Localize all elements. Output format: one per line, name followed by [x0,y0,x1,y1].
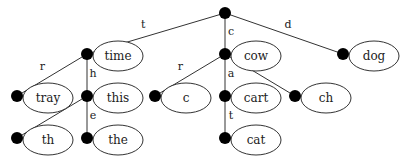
node-label: tray [36,91,61,105]
node-label: time [104,49,131,63]
node-label: cat [247,133,266,147]
node-label: dog [363,49,386,63]
edge-label: d [284,18,291,31]
node-dot [219,48,231,60]
node-label: ch [319,91,334,105]
node-dog: dog [337,41,399,71]
node-th: th [11,125,73,155]
node-dot [337,48,349,60]
edge-label: t [229,109,234,122]
node-dot [81,132,93,144]
node-label: c [183,91,190,105]
node-dot [219,132,231,144]
node-dot [149,90,161,102]
node-ch: ch [289,83,351,113]
node-cat: cat [219,125,281,155]
edge-label: t [141,18,146,31]
node-label: th [42,133,55,147]
edge-label: c [228,25,234,38]
edge-label: r [178,60,184,73]
node-dot [289,90,301,102]
node-dot [81,90,93,102]
node-label: cart [244,91,269,105]
node-dot [11,90,23,102]
node-dot [11,132,23,144]
node-label: cow [244,49,269,63]
edge-label: e [90,109,97,122]
edge-label: a [228,67,235,80]
edge-label: r [40,60,46,73]
node-c: c [149,83,211,113]
node-label: this [107,91,130,105]
node-tray: tray [11,83,73,113]
node-dot [219,90,231,102]
node-the: the [81,125,143,155]
edge-label: h [89,67,96,80]
root-node-dot [219,7,231,19]
node-label: the [108,133,128,147]
node-dot [81,48,93,60]
trie-diagram: tcdrhrahrettimecowdogtraythisccartchthth… [0,0,404,163]
